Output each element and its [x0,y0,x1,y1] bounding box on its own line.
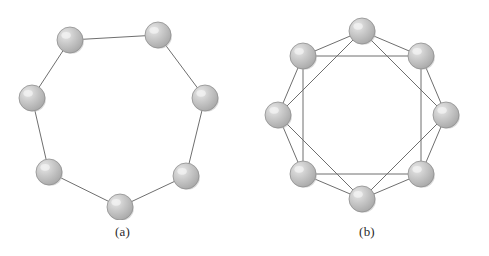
node-highlight [412,48,421,55]
node-highlight [61,32,70,39]
graph-node [57,27,83,53]
node-highlight [40,164,49,171]
graph-node [192,85,218,111]
graph-edge [278,31,362,115]
graph-node [349,18,375,44]
chordal-ring-graph-diagram-b [245,0,489,220]
node-layer [19,22,219,220]
graph-edge [362,115,446,199]
node-highlight [149,27,158,34]
node-highlight [294,48,303,55]
node-highlight [23,90,32,97]
graph-node [433,102,459,128]
graph-node [408,161,434,187]
graph-panel-b: (b) [245,0,489,256]
graph-edge [362,31,446,115]
graph-node [290,161,316,187]
node-highlight [412,166,421,173]
node-highlight [177,168,186,175]
node-highlight [196,90,205,97]
graph-node [145,22,171,48]
graph-node [408,43,434,69]
node-highlight [353,23,362,30]
graph-node [107,194,133,220]
graph-node [36,159,62,185]
node-highlight [353,191,362,198]
graph-node [173,163,199,189]
graph-node [349,186,375,212]
figure-root: (a) (b) [0,0,489,256]
ring-graph-diagram-a [0,0,245,220]
graph-panel-a: (a) [0,0,245,256]
graph-node [290,43,316,69]
panel-caption-a: (a) [0,224,245,240]
graph-node [265,102,291,128]
graph-node [19,85,45,111]
panel-caption-b: (b) [245,224,489,240]
graph-edge [278,115,362,199]
node-highlight [111,199,120,206]
node-layer [265,18,460,213]
node-highlight [294,166,303,173]
node-highlight [437,107,446,114]
node-highlight [269,107,278,114]
